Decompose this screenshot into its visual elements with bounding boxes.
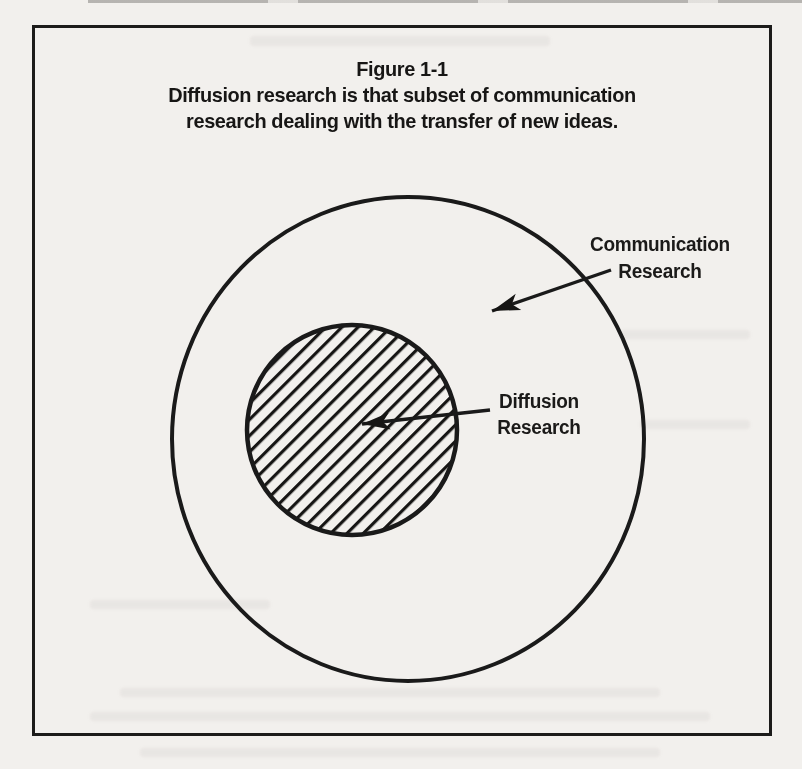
bleedthrough-smudge: [140, 748, 660, 757]
inner-set-label-line-1: Diffusion: [454, 388, 625, 414]
figure-caption-line-2: research dealing with the transfer of ne…: [51, 108, 754, 134]
outer-set-label: Communication Research: [556, 231, 765, 285]
figure-caption-line-1: Diffusion research is that subset of com…: [51, 82, 754, 108]
scanned-book-page: Figure 1-1 Diffusion research is that su…: [0, 0, 802, 769]
inner-set-label-line-2: Research: [454, 414, 625, 440]
figure-number: Figure 1-1: [51, 56, 754, 82]
figure-title-block: Figure 1-1 Diffusion research is that su…: [51, 56, 754, 134]
outer-set-label-line-2: Research: [556, 258, 765, 285]
inner-set-label: Diffusion Research: [454, 388, 625, 440]
outer-set-label-line-1: Communication: [556, 231, 765, 258]
scan-edge-artifact: [88, 0, 802, 3]
